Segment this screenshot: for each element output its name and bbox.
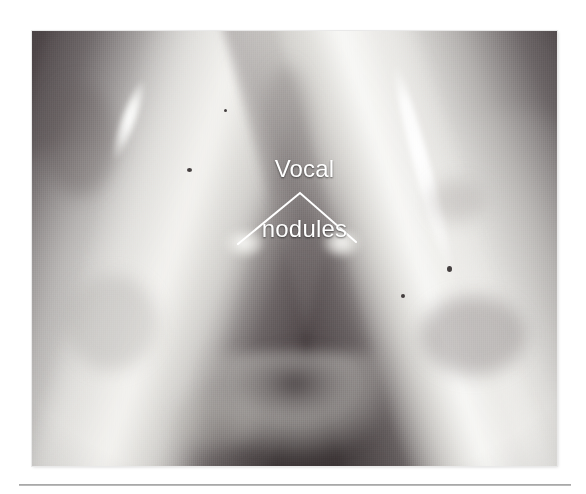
- figure-page: Vocal nodules: [0, 0, 586, 494]
- tissue-mottle: [174, 396, 258, 448]
- tissue-mottle: [43, 83, 117, 196]
- right-vocal-nodule: [321, 227, 363, 260]
- image-speck: [447, 266, 452, 272]
- left-vocal-nodule: [221, 227, 266, 260]
- tissue-mottle: [64, 275, 159, 371]
- image-speck: [187, 168, 192, 172]
- tissue-mottle: [263, 66, 310, 197]
- tissue-mottle: [421, 296, 526, 374]
- tissue-mottle: [431, 179, 484, 223]
- image-speck: [401, 294, 405, 298]
- laryngoscopy-photograph: Vocal nodules: [32, 31, 557, 466]
- page-horizontal-rule: [19, 484, 571, 486]
